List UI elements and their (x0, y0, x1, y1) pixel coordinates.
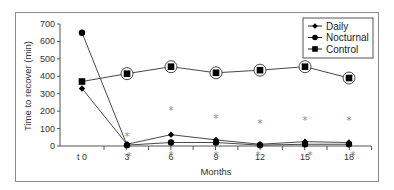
legend-square-icon (312, 46, 318, 52)
asterisk-marker: * (169, 150, 174, 161)
y-axis-title: Time to recover (min) (22, 41, 33, 131)
asterisk-marker: * (169, 105, 174, 116)
nocturnal-point (346, 141, 352, 147)
y-axis: 0100200300400500600700 (40, 19, 60, 151)
nocturnal-point (257, 142, 263, 148)
significance-markers: ************ (125, 105, 356, 162)
control-point (79, 78, 86, 85)
control-point (168, 63, 175, 70)
asterisk-marker: * (125, 131, 130, 142)
asterisk-marker: * (303, 115, 308, 126)
nocturnal-point (79, 30, 85, 36)
control-point (257, 67, 264, 74)
x-axis-title: Months (200, 166, 231, 177)
y-tick-label: 100 (40, 124, 55, 134)
x-tick-label: t 0 (77, 152, 87, 162)
legend: DailyNocturnalControl (303, 18, 373, 58)
y-tick-label: 700 (40, 19, 55, 29)
control-point (124, 70, 131, 77)
y-tick-label: 300 (40, 89, 55, 99)
asterisk-marker: * (258, 118, 263, 129)
line-chart: 0100200300400500600700 t 0369121518 Time… (0, 0, 394, 190)
asterisk-marker: * (256, 150, 261, 161)
control-point (346, 75, 353, 82)
daily-point (168, 131, 174, 137)
legend-label: Control (326, 44, 358, 55)
legend-label: Nocturnal (326, 32, 369, 43)
y-tick-label: 500 (40, 54, 55, 64)
asterisk-marker: * (347, 115, 352, 126)
control-point (213, 70, 220, 77)
control-point (302, 63, 309, 70)
asterisk-marker: * (214, 113, 219, 124)
y-tick-label: 0 (50, 141, 55, 151)
asterisk-marker: * (308, 150, 313, 161)
asterisk-marker: * (351, 150, 356, 161)
y-tick-label: 200 (40, 106, 55, 116)
nocturnal-point (124, 142, 130, 148)
legend-circle-icon (312, 35, 318, 41)
legend-label: Daily (326, 21, 348, 32)
nocturnal-point (168, 139, 174, 145)
asterisk-marker: * (127, 151, 132, 162)
asterisk-marker: * (214, 150, 219, 161)
nocturnal-point (213, 139, 219, 145)
y-tick-label: 600 (40, 36, 55, 46)
y-tick-label: 400 (40, 71, 55, 81)
nocturnal-point (302, 141, 308, 147)
